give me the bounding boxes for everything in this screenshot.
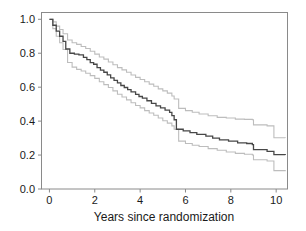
x-tick-label: 6 (182, 194, 188, 206)
y-tick-label: 0.2 (20, 149, 35, 161)
y-tick-label: 0.8 (20, 47, 35, 59)
y-tick-label: 0.0 (20, 183, 35, 195)
x-tick-label: 0 (46, 194, 52, 206)
y-tick-label: 0.4 (20, 115, 35, 127)
x-tick-label: 2 (92, 194, 98, 206)
x-tick-label: 4 (137, 194, 143, 206)
x-tick-label: 10 (270, 194, 282, 206)
kaplan-meier-chart: 0.00.20.40.60.81.0 0246810 Years since r… (0, 0, 306, 231)
y-tick-label: 0.6 (20, 81, 35, 93)
x-axis-title: Years since randomization (94, 210, 234, 224)
chart-canvas: 0.00.20.40.60.81.0 0246810 Years since r… (0, 0, 306, 231)
x-tick-label: 8 (228, 194, 234, 206)
y-tick-label: 1.0 (20, 13, 35, 25)
